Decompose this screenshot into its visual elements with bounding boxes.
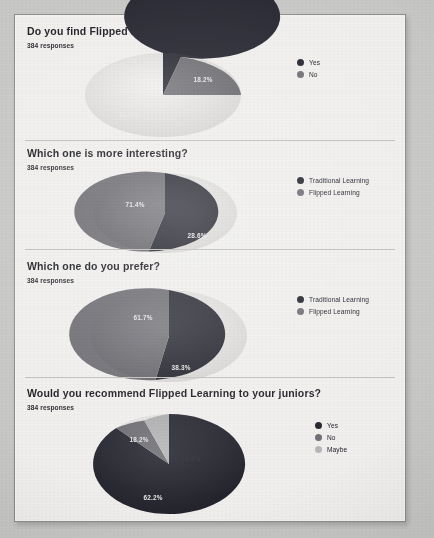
- pie-chart-recommend: 62.2% 18.2% 19.5%: [93, 414, 253, 514]
- legend-recommend: Yes No Maybe: [315, 422, 347, 453]
- legend-label-no: No: [309, 71, 318, 78]
- question-title-prefer: Which one do you prefer?: [27, 260, 160, 272]
- legend-label-yes: Yes: [309, 59, 320, 66]
- legend-swatch-yes: [315, 422, 322, 429]
- legend-swatch-maybe: [315, 446, 322, 453]
- pie-chart-more-interesting: 71.4% 28.6%: [93, 173, 243, 255]
- legend-item-traditional-learning[interactable]: Traditional Learning: [297, 296, 369, 303]
- legend-item-flipped-learning[interactable]: Flipped Learning: [297, 308, 369, 315]
- legend-swatch-traditional-learning: [297, 177, 304, 184]
- response-count-usefulness: 384 responses: [27, 42, 74, 49]
- pie-label-traditional: 38.3%: [171, 364, 190, 371]
- document-page: Do you find Flipped Learning useful? 384…: [14, 14, 406, 522]
- pie-label-yes: 62.2%: [143, 494, 162, 501]
- survey-question-section-more-interesting: Which one is more interesting? 384 respo…: [15, 141, 405, 250]
- legend-label-no: No: [327, 434, 336, 441]
- pie-label-no: 18.2%: [129, 436, 148, 443]
- legend-item-no[interactable]: No: [315, 434, 347, 441]
- survey-question-section-usefulness: Do you find Flipped Learning useful? 384…: [15, 15, 405, 141]
- pie-chart-prefer: 61.7% 38.3%: [91, 290, 251, 382]
- pie-svg-recommend: 62.2% 18.2% 19.5%: [93, 414, 253, 514]
- legend-usefulness: Yes No: [297, 59, 320, 78]
- pie-label-no: 18.2%: [193, 76, 212, 83]
- pie-chart-usefulness: 81.8% 18.2%: [83, 53, 243, 137]
- pie-label-flipped: 71.4%: [125, 201, 144, 208]
- legend-label-flipped-learning: Flipped Learning: [309, 308, 360, 315]
- legend-label-maybe: Maybe: [327, 446, 347, 453]
- legend-item-maybe[interactable]: Maybe: [315, 446, 347, 453]
- legend-item-yes[interactable]: Yes: [297, 59, 320, 66]
- legend-swatch-no: [297, 71, 304, 78]
- legend-item-no[interactable]: No: [297, 71, 320, 78]
- question-title-more-interesting: Which one is more interesting?: [27, 147, 188, 159]
- legend-swatch-no: [315, 434, 322, 441]
- legend-label-flipped-learning: Flipped Learning: [309, 189, 360, 196]
- response-count-recommend: 384 responses: [27, 404, 74, 411]
- legend-item-flipped-learning[interactable]: Flipped Learning: [297, 189, 369, 196]
- response-count-prefer: 384 responses: [27, 277, 74, 284]
- legend-more-interesting: Traditional Learning Flipped Learning: [297, 177, 369, 196]
- legend-label-yes: Yes: [327, 422, 338, 429]
- legend-label-traditional-learning: Traditional Learning: [309, 177, 369, 184]
- legend-label-traditional-learning: Traditional Learning: [309, 296, 369, 303]
- legend-item-yes[interactable]: Yes: [315, 422, 347, 429]
- pie-label-yes: 81.8%: [119, 111, 138, 118]
- legend-swatch-yes: [297, 59, 304, 66]
- survey-question-section-prefer: Which one do you prefer? 384 responses 6…: [15, 250, 405, 378]
- pie-label-traditional: 28.6%: [187, 232, 206, 239]
- pie-svg-prefer: 61.7% 38.3%: [91, 290, 251, 382]
- legend-swatch-flipped-learning: [297, 308, 304, 315]
- survey-question-section-recommend: Would you recommend Flipped Learning to …: [15, 378, 405, 521]
- response-count-more-interesting: 384 responses: [27, 164, 74, 171]
- legend-swatch-flipped-learning: [297, 189, 304, 196]
- pie-label-maybe: 19.5%: [181, 455, 200, 462]
- question-title-recommend: Would you recommend Flipped Learning to …: [27, 387, 321, 399]
- pie-label-flipped: 61.7%: [133, 314, 152, 321]
- pie-svg-more-interesting: 71.4% 28.6%: [93, 173, 243, 255]
- legend-swatch-traditional-learning: [297, 296, 304, 303]
- pie-svg-usefulness: 81.8% 18.2%: [83, 53, 243, 137]
- legend-item-traditional-learning[interactable]: Traditional Learning: [297, 177, 369, 184]
- legend-prefer: Traditional Learning Flipped Learning: [297, 296, 369, 315]
